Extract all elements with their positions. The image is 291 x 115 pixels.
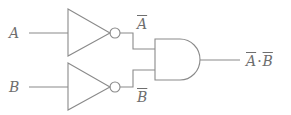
not-b-to-and-wire xyxy=(120,70,155,87)
not-gate-a xyxy=(68,9,110,56)
input-a-label: A xyxy=(9,26,19,40)
output-b-bar: B xyxy=(263,53,273,69)
not-bubble-a xyxy=(110,28,120,38)
output-expression: A·B xyxy=(246,54,273,68)
not-bubble-b xyxy=(110,82,120,92)
output-operator: · xyxy=(257,53,261,69)
and-gate xyxy=(155,39,200,80)
not-a-label: A xyxy=(137,17,147,31)
output-a-bar: A xyxy=(246,53,256,69)
not-a-to-and-wire xyxy=(120,33,155,49)
logic-circuit-diagram: A B A B A·B xyxy=(0,0,291,115)
input-b-label: B xyxy=(9,80,19,94)
not-b-label: B xyxy=(137,90,147,104)
not-gate-b xyxy=(68,63,110,110)
